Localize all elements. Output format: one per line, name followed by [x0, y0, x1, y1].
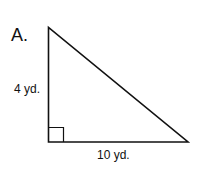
right-triangle	[49, 28, 189, 143]
problem-label: A.	[11, 26, 28, 44]
right-angle-marker	[49, 128, 64, 143]
horizontal-side-label: 10 yd.	[97, 149, 130, 161]
vertical-side-label: 4 yd.	[14, 83, 40, 95]
